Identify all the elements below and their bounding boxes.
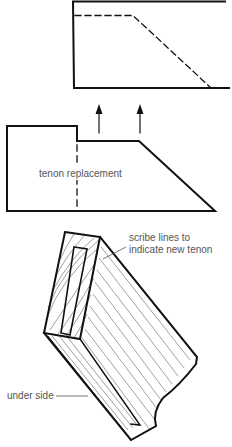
- arrowhead-icon: [137, 104, 144, 114]
- scribe-label-line1: scribe lines to: [129, 232, 191, 243]
- wood-grain-lines: [46, 234, 190, 430]
- perspective-view-figure: scribe lines to indicate new tenon under…: [7, 232, 212, 440]
- scribe-label-line2: indicate new tenon: [129, 244, 212, 255]
- underside-label: under side: [7, 390, 54, 401]
- arrowhead-icon: [96, 104, 103, 114]
- diagram-canvas: tenon replacement: [0, 0, 232, 447]
- arrows: [96, 104, 144, 133]
- top-view-figure: [73, 2, 229, 89]
- top-view-outline: [73, 2, 229, 89]
- side-view-figure: tenon replacement: [7, 126, 215, 211]
- tenon-replacement-label: tenon replacement: [39, 168, 122, 179]
- top-view-dashed-profile: [75, 16, 210, 88]
- scribe-leader-line: [103, 247, 126, 259]
